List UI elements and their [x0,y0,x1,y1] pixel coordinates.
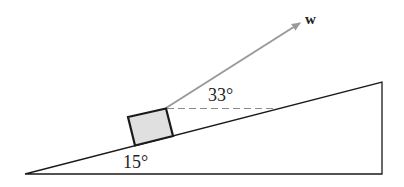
inclined-plane-diagram: 33° 15° w [0,0,404,187]
force-vector-label: w [305,11,316,27]
force-angle-label: 33° [208,85,233,105]
incline-triangle [25,82,382,174]
incline-angle-label: 15° [123,152,148,172]
block [128,109,173,146]
